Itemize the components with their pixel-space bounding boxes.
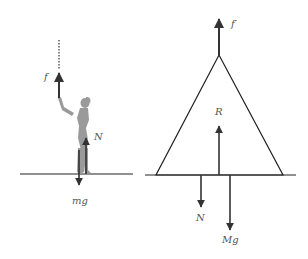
label-N-left: N [93,131,104,142]
free-body-diagram: f N mg f′ R N Mg [0,0,308,259]
label-f-prime: f′ [230,18,238,29]
right-panel: f′ R N Mg [145,18,296,245]
label-mg: mg [72,195,88,206]
label-f: f [43,71,50,82]
label-R: R [214,106,223,117]
label-N-right: N [195,212,206,223]
left-panel: f N mg [20,40,133,206]
label-Mg: Mg [221,234,239,245]
